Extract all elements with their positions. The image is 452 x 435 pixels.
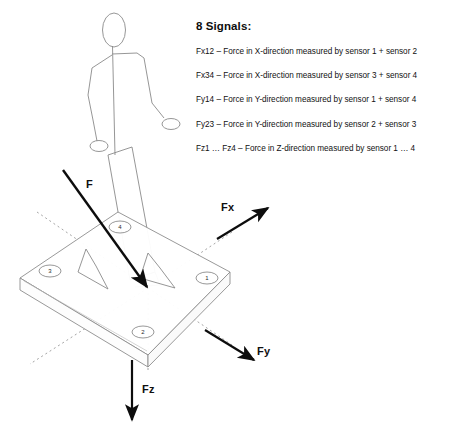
signal-line-fy14: Fy14 – Force in Y-direction measured by …: [196, 95, 448, 105]
figure-head: [103, 13, 126, 47]
signals-legend-title: 8 Signals:: [196, 20, 448, 34]
signals-legend: 8 Signals: Fx12 – Force in X-direction m…: [196, 20, 448, 154]
force-y-arrow: [205, 330, 254, 360]
signal-line-fx12: Fx12 – Force in X-direction measured by …: [196, 47, 448, 57]
signal-line-fz1-fz4: Fz1 … Fz4 – Force in Z-direction measure…: [196, 144, 448, 154]
figure-spine: [113, 46, 116, 155]
signal-line-fx34: Fx34 – Force in X-direction measured by …: [196, 71, 448, 81]
figure-right-hand: [162, 119, 180, 130]
figure-right-forearm: [152, 103, 164, 118]
sensor-3-label: 3: [42, 268, 58, 274]
signal-line-fy23: Fy23 – Force in Y-direction measured by …: [196, 120, 448, 130]
sensor-2-label: 2: [135, 329, 151, 335]
plate-top-face: [20, 212, 230, 355]
force-resultant-label: F: [86, 178, 93, 190]
figure-left-arm: [88, 55, 112, 120]
force-x-label: Fx: [221, 201, 234, 213]
force-plate: [20, 212, 230, 367]
sensor-4-label: 4: [112, 224, 128, 230]
force-plate-diagram-page: F Fx Fy Fz 1 2 3 4 8 Signals: Fx12 – For…: [0, 0, 452, 435]
figure-left-forearm: [93, 120, 97, 141]
sensor-1-label: 1: [199, 275, 215, 281]
force-y-label: Fy: [257, 345, 270, 357]
figure-right-arm: [112, 53, 152, 103]
figure-left-hand: [90, 141, 108, 152]
force-z-label: Fz: [142, 383, 155, 395]
